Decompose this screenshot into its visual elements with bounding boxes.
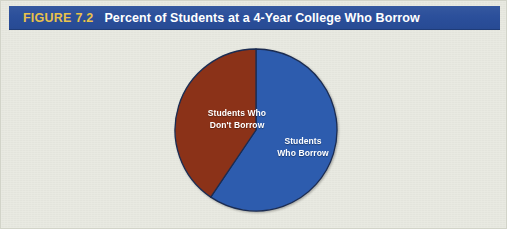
figure-number: 7.2 <box>75 11 93 25</box>
pie-chart: Students Who Don't Borrow Students Who B… <box>173 47 339 213</box>
pie-label-dont-borrow-line2: Don't Borrow <box>210 120 265 130</box>
figure-title-text: Percent of Students at a 4-Year College … <box>104 11 419 25</box>
pie-label-students-who-borrow: Students Who Borrow <box>264 136 342 159</box>
pie-label-dont-borrow-line1: Students Who <box>208 108 266 118</box>
figure-label: FIGURE <box>23 11 71 25</box>
figure-title-inner: FIGURE 7.2 Percent of Students at a 4-Ye… <box>9 11 420 25</box>
pie-label-students-who-dont-borrow: Students Who Don't Borrow <box>185 108 289 131</box>
figure-title-bar: FIGURE 7.2 Percent of Students at a 4-Ye… <box>9 6 500 30</box>
figure-root: FIGURE 7.2 Percent of Students at a 4-Ye… <box>0 0 507 236</box>
pie-label-borrow-line2: Who Borrow <box>277 148 329 158</box>
figure-plate: FIGURE 7.2 Percent of Students at a 4-Ye… <box>0 0 507 229</box>
pie-label-borrow-line1: Students <box>284 136 321 146</box>
chart-area: Students Who Don't Borrow Students Who B… <box>9 31 500 228</box>
